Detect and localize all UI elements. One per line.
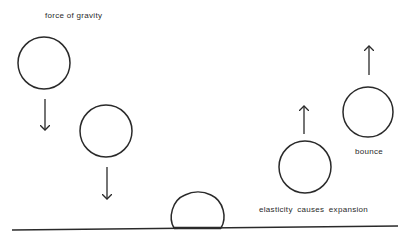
bounce-diagram: force of gravity bounce elasticity cause…: [0, 0, 407, 240]
squashed-ball-shape: [171, 192, 224, 228]
ball-expanding: [279, 106, 331, 193]
diagram-svg: [0, 0, 407, 240]
ball-circle: [279, 141, 331, 193]
label-elasticity: elasticity causes expansion: [259, 206, 368, 214]
ball-squashed-impact: [171, 192, 224, 228]
label-bounce: bounce: [355, 148, 383, 156]
label-force-of-gravity: force of gravity: [45, 12, 102, 20]
ball-bouncing: [343, 46, 393, 137]
ball-falling-1: [18, 37, 70, 130]
ball-circle: [343, 87, 393, 137]
ball-circle: [80, 105, 132, 157]
ball-falling-2: [80, 105, 132, 199]
ball-circle: [18, 37, 70, 89]
